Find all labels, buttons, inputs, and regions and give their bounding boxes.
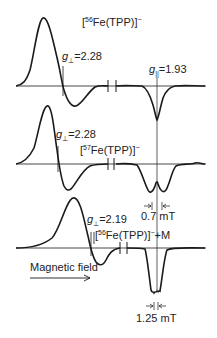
- splitting-arrow-left: [146, 304, 153, 308]
- splitting-arrow-left: [144, 204, 151, 208]
- compound-label-2: [57Fe(TPP)]−: [80, 145, 140, 156]
- splitting-arrow-right: [163, 204, 170, 208]
- splitting-label-2: 1.25 mT: [136, 313, 176, 324]
- splitting-label-1: 0.7 mT: [141, 211, 175, 222]
- splitting-arrow-right: [159, 304, 166, 308]
- magnetic-field-label: Magnetic field: [30, 262, 98, 273]
- compound-label-1: [56Fe(TPP)]−: [82, 17, 142, 28]
- g-par-label: g||=1.93: [149, 64, 187, 75]
- g-perp-label-3: g⊥=2.19: [87, 214, 127, 225]
- compound-label-3: [56Fe(TPP)]−+M: [95, 230, 170, 241]
- g-perp-label-2: g⊥=2.28: [56, 129, 96, 140]
- g-perp-label-1: g⊥=2.28: [62, 51, 102, 62]
- magnetic-field-arrow: [30, 275, 90, 281]
- epr-spectra-diagram: [0, 0, 217, 338]
